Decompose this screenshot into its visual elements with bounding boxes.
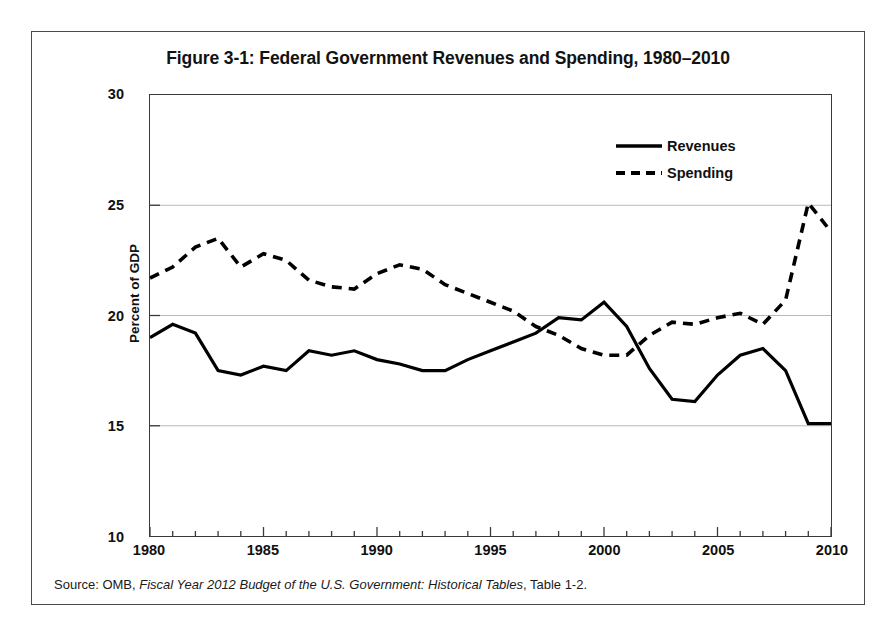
legend-swatch-solid-icon bbox=[614, 139, 664, 153]
chart-legend: RevenuesSpending bbox=[614, 132, 789, 186]
legend-label: Spending bbox=[664, 165, 733, 181]
figure-frame: Figure 3-1: Federal Government Revenues … bbox=[31, 31, 865, 605]
x-tick-2005: 2005 bbox=[683, 542, 753, 558]
y-tick-15: 15 bbox=[64, 418, 124, 434]
source-suffix: , Table 1-2. bbox=[523, 577, 587, 592]
series-line-spending bbox=[150, 203, 831, 355]
x-tick-2000: 2000 bbox=[569, 542, 639, 558]
y-tick-30: 30 bbox=[64, 86, 124, 102]
source-prefix: Source: OMB, bbox=[54, 577, 139, 592]
legend-item-spending: Spending bbox=[614, 159, 789, 186]
plot-wrapper: Percent of GDP 3025201510 19801985199019… bbox=[114, 94, 832, 568]
x-tick-1985: 1985 bbox=[228, 542, 298, 558]
x-tick-1980: 1980 bbox=[114, 542, 184, 558]
series-paths bbox=[150, 203, 831, 423]
legend-item-revenues: Revenues bbox=[614, 132, 789, 159]
y-tick-20: 20 bbox=[64, 308, 124, 324]
figure-title: Figure 3-1: Federal Government Revenues … bbox=[32, 48, 864, 69]
series-line-revenues bbox=[150, 302, 831, 423]
source-note: Source: OMB, Fiscal Year 2012 Budget of … bbox=[54, 577, 587, 592]
legend-swatch-dashed-icon bbox=[614, 166, 664, 180]
x-tick-1995: 1995 bbox=[456, 542, 526, 558]
x-tick-2010: 2010 bbox=[797, 542, 867, 558]
x-tick-1990: 1990 bbox=[342, 542, 412, 558]
y-tick-25: 25 bbox=[64, 197, 124, 213]
source-title: Fiscal Year 2012 Budget of the U.S. Gove… bbox=[139, 577, 523, 592]
legend-label: Revenues bbox=[664, 138, 736, 154]
gridlines bbox=[150, 205, 831, 426]
y-axis-label: Percent of GDP bbox=[127, 214, 142, 374]
